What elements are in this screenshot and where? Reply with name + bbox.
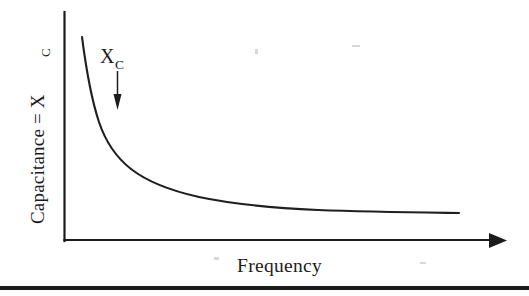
y-axis-label: Capacitance = X xyxy=(27,94,48,224)
callout-label: X xyxy=(100,45,115,67)
arrow-right-icon xyxy=(489,233,507,248)
scan-speck xyxy=(214,257,219,260)
scan-speck xyxy=(255,49,258,54)
y-axis-label-subscript: C xyxy=(38,48,53,57)
footer-divider xyxy=(0,286,529,290)
y-axis-label-group: Capacitance = X C xyxy=(27,48,53,224)
scan-speck xyxy=(352,45,360,47)
x-axis-label: Frequency xyxy=(237,255,322,276)
callout-label-subscript: C xyxy=(115,57,124,72)
scan-speck xyxy=(420,262,426,264)
figure-container: Capacitance = X C Frequency X C xyxy=(0,0,529,296)
arrow-down-icon xyxy=(114,94,122,110)
capacitance-frequency-chart: Capacitance = X C Frequency X C xyxy=(0,0,529,296)
xc-decay-curve xyxy=(82,37,459,213)
